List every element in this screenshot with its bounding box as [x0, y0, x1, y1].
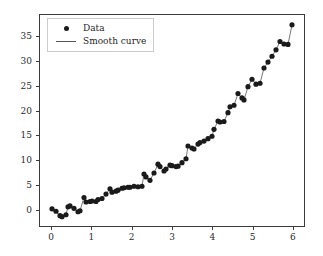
data-point [71, 206, 76, 211]
x-tick-mark [132, 227, 133, 230]
x-tick-label: 2 [129, 233, 135, 242]
chart-figure: 05101520253035 0123456 Data Smooth curve [0, 0, 323, 256]
data-point [221, 119, 226, 124]
data-point [163, 167, 168, 172]
x-tick-label: 6 [290, 233, 296, 242]
data-point [273, 47, 278, 52]
y-tick-mark [36, 135, 39, 136]
data-point [103, 192, 108, 197]
x-tick-label: 3 [169, 233, 175, 242]
data-point [139, 184, 144, 189]
data-point [261, 65, 266, 70]
data-point [147, 178, 152, 183]
data-point [231, 103, 236, 108]
y-tick-label: 20 [4, 106, 32, 115]
legend-item-data: Data [53, 22, 146, 35]
data-point [235, 91, 240, 96]
data-point [175, 164, 180, 169]
data-point [245, 84, 250, 89]
y-tick-label: 5 [4, 180, 32, 189]
data-point [225, 110, 230, 115]
data-point [53, 209, 58, 214]
y-tick-mark [36, 36, 39, 37]
y-tick-mark [36, 160, 39, 161]
data-point [63, 212, 68, 217]
data-point [211, 127, 216, 132]
y-tick-mark [36, 185, 39, 186]
data-point [157, 164, 162, 169]
data-point [289, 22, 294, 27]
x-tick-mark [253, 227, 254, 230]
x-tick-label: 4 [209, 233, 215, 242]
x-tick-mark [91, 227, 92, 230]
data-point [151, 170, 156, 175]
x-tick-mark [293, 227, 294, 230]
y-tick-label: 30 [4, 57, 32, 66]
chart-legend: Data Smooth curve [47, 18, 154, 52]
x-tick-mark [212, 227, 213, 230]
data-point [269, 54, 274, 59]
data-point [191, 146, 196, 151]
x-tick-label: 0 [48, 233, 54, 242]
y-tick-label: 35 [4, 32, 32, 41]
data-point [257, 81, 262, 86]
legend-label-data: Data [79, 24, 105, 33]
smooth-curve-line [52, 25, 292, 217]
dot-marker-icon [53, 26, 79, 31]
y-tick-mark [36, 61, 39, 62]
data-point [77, 208, 82, 213]
y-tick-label: 10 [4, 156, 32, 165]
y-tick-mark [36, 86, 39, 87]
x-tick-label: 5 [250, 233, 256, 242]
data-point [265, 60, 270, 65]
data-point [143, 174, 148, 179]
y-tick-mark [36, 210, 39, 211]
x-tick-label: 1 [89, 233, 95, 242]
data-point [249, 77, 254, 82]
data-point [179, 160, 184, 165]
x-tick-mark [172, 227, 173, 230]
data-point [209, 134, 214, 139]
y-tick-label: 0 [4, 205, 32, 214]
data-point [183, 156, 188, 161]
data-point [285, 42, 290, 47]
data-point [99, 196, 104, 201]
y-tick-mark [36, 111, 39, 112]
x-tick-mark [51, 227, 52, 230]
data-point [81, 195, 86, 200]
y-tick-label: 15 [4, 131, 32, 140]
data-point [241, 97, 246, 102]
line-marker-icon [53, 41, 79, 42]
legend-item-smooth-curve: Smooth curve [53, 35, 146, 48]
y-tick-label: 25 [4, 81, 32, 90]
legend-label-smooth-curve: Smooth curve [79, 37, 146, 46]
